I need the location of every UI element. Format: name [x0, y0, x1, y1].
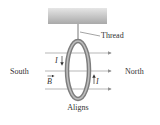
current-left-label: I: [54, 56, 58, 65]
thread-label: Thread: [101, 31, 124, 40]
field-label: B: [47, 77, 52, 86]
magnetic-loop-diagram: Thread South North I B I Aligns: [0, 0, 160, 125]
caption-label: Aligns: [67, 103, 88, 112]
current-loop-ring-highlight: [67, 41, 89, 99]
ceiling-support: [48, 8, 107, 24]
current-right-label: I: [95, 77, 99, 86]
north-label: North: [125, 67, 144, 76]
thread-leader-line: [80, 32, 100, 36]
south-label: South: [10, 67, 29, 76]
